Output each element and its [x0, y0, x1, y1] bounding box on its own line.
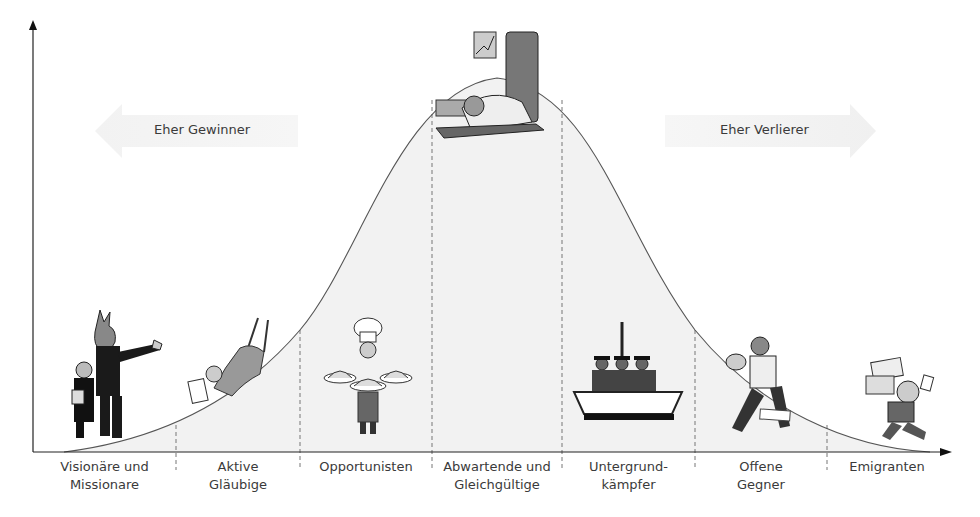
- segment-label-emigrants: Emigranten: [827, 458, 947, 476]
- segment-label-open-opponents: Offene Gegner: [695, 458, 827, 494]
- diagram-canvas: [0, 0, 980, 517]
- segment-label-waiting-indifferent: Abwartende und Gleichgültige: [432, 458, 562, 494]
- x-axis-arrowhead-icon: [940, 448, 952, 456]
- person-running-with-papers-icon: [866, 358, 934, 440]
- losers-arrow-label: Eher Verlierer: [720, 122, 809, 137]
- segment-label-visionaries: Visionäre und Missionare: [33, 458, 176, 494]
- y-axis-arrowhead-icon: [29, 20, 37, 30]
- adoption-bell-curve-diagram: Eher Gewinner Eher Verlierer Visionäre u…: [0, 0, 980, 517]
- segment-label-active-believers: Aktive Gläubige: [176, 458, 300, 494]
- businessmen-pointing-icon: [72, 310, 162, 438]
- segment-label-opportunists: Opportunisten: [300, 458, 432, 476]
- winners-arrow-label: Eher Gewinner: [154, 122, 250, 137]
- segment-label-underground-fighters: Untergrund- kämpfer: [562, 458, 695, 494]
